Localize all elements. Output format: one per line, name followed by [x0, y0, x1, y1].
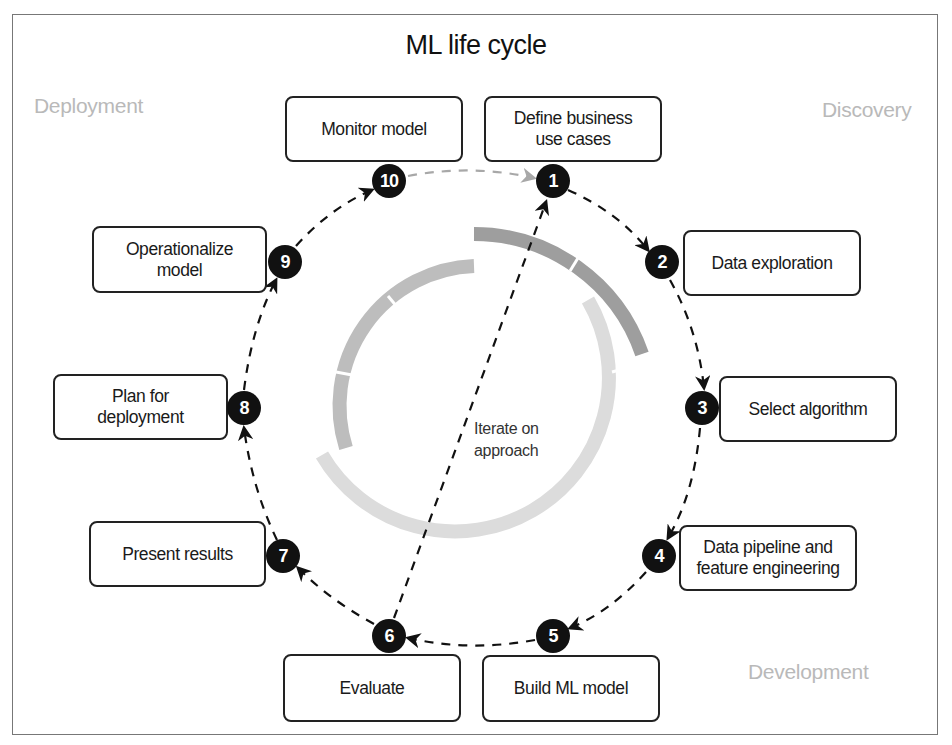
step-node-4: 4 — [642, 539, 676, 573]
step-node-1: 1 — [536, 164, 570, 198]
phase-ring — [322, 234, 642, 574]
step-box-present-results: Present results — [89, 521, 266, 587]
deployment-arc — [340, 266, 474, 448]
step-box-operationalize-model: Operationalize model — [92, 226, 267, 293]
step-node-2: 2 — [645, 245, 679, 279]
iterate-on-approach-label: Iterate on approach — [474, 418, 539, 462]
step-node-8: 8 — [227, 391, 261, 425]
step-box-data-pipeline: Data pipeline and feature engineering — [679, 525, 857, 591]
step-box-evaluate: Evaluate — [283, 654, 461, 722]
step-node-5: 5 — [536, 619, 570, 653]
step-node-9: 9 — [268, 245, 302, 279]
discovery-arc — [474, 234, 642, 354]
cycle-graphic — [0, 0, 952, 745]
step-node-3: 3 — [685, 391, 719, 425]
step-box-monitor-model: Monitor model — [285, 96, 463, 162]
loop-back-arrow — [408, 170, 534, 178]
step-node-7: 7 — [266, 539, 300, 573]
step-node-10: 10 — [372, 164, 406, 198]
step-box-plan-for-deployment: Plan for deployment — [53, 374, 228, 440]
step-node-6: 6 — [372, 619, 406, 653]
step-box-data-exploration: Data exploration — [683, 230, 861, 296]
step-box-select-algorithm: Select algorithm — [719, 376, 897, 442]
step-box-define-business-use-cases: Define business use cases — [484, 96, 662, 162]
step-box-build-ml-model: Build ML model — [482, 655, 660, 722]
